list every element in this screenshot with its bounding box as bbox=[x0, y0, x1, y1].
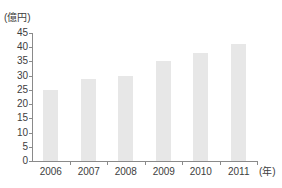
y-tick-label-15: 15 bbox=[2, 112, 28, 124]
y-tick-5 bbox=[29, 147, 32, 148]
y-tick-label-10: 10 bbox=[2, 127, 28, 139]
y-tick-label-45: 45 bbox=[2, 27, 28, 39]
x-tick-label-2011: 2011 bbox=[220, 166, 258, 178]
y-tick-label-25: 25 bbox=[2, 84, 28, 96]
bar-2008 bbox=[118, 76, 133, 161]
y-axis-line bbox=[32, 33, 33, 162]
y-tick-label-30: 30 bbox=[2, 70, 28, 82]
y-tick-label-5: 5 bbox=[2, 141, 28, 153]
bar-2010 bbox=[193, 53, 208, 161]
y-tick-30 bbox=[29, 76, 32, 77]
x-axis-unit-label: (年) bbox=[259, 166, 276, 178]
y-tick-label-0: 0 bbox=[2, 155, 28, 167]
y-tick-0 bbox=[29, 161, 32, 162]
y-tick-45 bbox=[29, 33, 32, 34]
x-tick-label-2009: 2009 bbox=[145, 166, 183, 178]
y-tick-40 bbox=[29, 47, 32, 48]
bar-chart: (億円) (年) 0510152025303540452006200720082… bbox=[0, 0, 282, 188]
y-tick-label-20: 20 bbox=[2, 98, 28, 110]
x-tick-2 bbox=[107, 162, 108, 165]
x-tick-label-2007: 2007 bbox=[70, 166, 108, 178]
y-tick-20 bbox=[29, 104, 32, 105]
bar-2011 bbox=[231, 44, 246, 161]
x-tick-6 bbox=[257, 162, 258, 165]
y-tick-label-35: 35 bbox=[2, 55, 28, 67]
bar-2009 bbox=[156, 61, 171, 161]
bar-2006 bbox=[43, 90, 58, 161]
y-tick-25 bbox=[29, 90, 32, 91]
x-tick-label-2010: 2010 bbox=[182, 166, 220, 178]
y-tick-15 bbox=[29, 118, 32, 119]
y-tick-10 bbox=[29, 133, 32, 134]
y-tick-35 bbox=[29, 61, 32, 62]
bar-2007 bbox=[81, 79, 96, 161]
x-tick-5 bbox=[220, 162, 221, 165]
x-tick-4 bbox=[182, 162, 183, 165]
x-tick-label-2008: 2008 bbox=[107, 166, 145, 178]
y-tick-label-40: 40 bbox=[2, 41, 28, 53]
y-axis-unit-label: (億円) bbox=[4, 12, 31, 24]
x-tick-label-2006: 2006 bbox=[32, 166, 70, 178]
x-tick-1 bbox=[70, 162, 71, 165]
x-tick-3 bbox=[145, 162, 146, 165]
